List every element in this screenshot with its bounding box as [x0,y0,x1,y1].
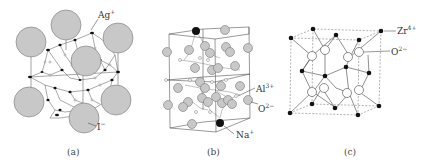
panel-b-beta-alumina-structure: Al3+ O2− Na+ (b) [163,26,275,158]
label-oxide-ion-b: O2− [258,102,274,114]
label-oxide-ion-c: O2− [391,45,407,57]
label-aluminum-ion: Al3+ [255,82,274,94]
label-zirconium-ion: Zr4+ [397,24,416,36]
label-iodide-ion: I− [97,120,106,132]
label-sodium-ion: Na+ [236,128,254,140]
panel-a-agi-structure: Ag+ I− (a) [14,8,133,157]
panel-c-zirconia-structure: Zr4+ O2− (c) [288,24,417,157]
label-ag-ion: Ag+ [97,8,115,20]
caption-b: (b) [207,147,220,157]
caption-a: (a) [67,147,79,157]
caption-c: (c) [344,147,356,157]
crystal-structures-figure: Ag+ I− (a) [0,0,424,168]
